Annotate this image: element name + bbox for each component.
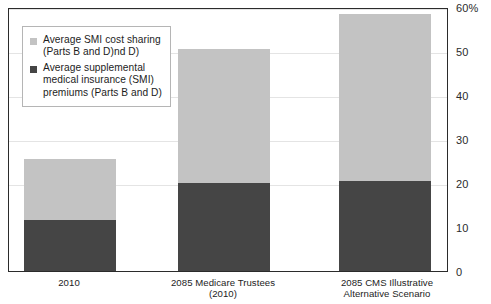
chart-container: Average SMI cost sharing (Parts B and D)… [0, 0, 491, 304]
legend-label-cost-sharing: Average SMI cost sharing (Parts B and D)… [43, 34, 162, 59]
ytick-30: 30 [456, 134, 468, 146]
bar-2010 [24, 159, 116, 271]
bar-2085-cms-illustrative-cost-sharing [339, 14, 431, 181]
bar-2010-premiums [24, 220, 116, 271]
xlabel-2010: 2010 [3, 277, 135, 288]
cropped-title-strip [0, 0, 440, 4]
ytick-60: 60% [456, 2, 478, 14]
legend: Average SMI cost sharing (Parts B and D)… [22, 26, 171, 107]
ytick-0: 0 [456, 266, 462, 278]
legend-label-premiums: Average supplemental medical insurance (… [43, 62, 162, 99]
xlabel-2085-trustees: 2085 Medicare Trustees (2010) [157, 277, 289, 300]
ytick-40: 40 [456, 90, 468, 102]
legend-swatch-premiums [30, 66, 37, 73]
bar-2085-trustees [178, 49, 270, 271]
bar-2085-cms-illustrative-premiums [339, 181, 431, 271]
legend-item-cost-sharing: Average SMI cost sharing (Parts B and D)… [30, 34, 162, 59]
ytick-10: 10 [456, 222, 468, 234]
bar-2010-cost-sharing [24, 159, 116, 221]
gridline-50 [9, 9, 447, 10]
legend-swatch-cost-sharing [30, 38, 37, 45]
bar-2085-cms-illustrative [339, 14, 431, 271]
legend-item-premiums: Average supplemental medical insurance (… [30, 62, 162, 99]
ytick-20: 20 [456, 178, 468, 190]
xlabel-2085-cms-illustrative: 2085 CMS Illustrative Alternative Scenar… [318, 277, 456, 300]
bar-2085-trustees-cost-sharing [178, 49, 270, 183]
bar-2085-trustees-premiums [178, 183, 270, 271]
ytick-50: 50 [456, 46, 468, 58]
